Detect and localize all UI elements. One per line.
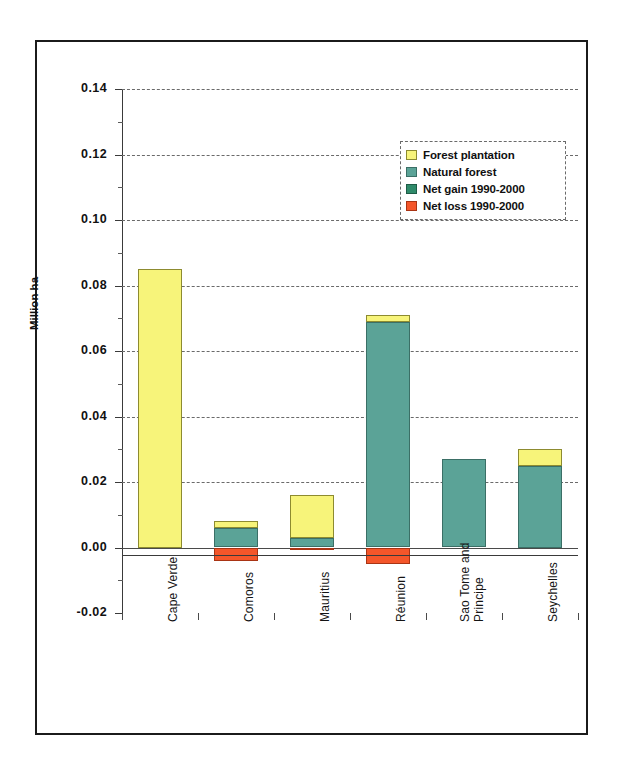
gridline-0.1 <box>122 220 578 221</box>
y-tick-label: 0.04 <box>45 409 107 423</box>
bar-group[interactable] <box>290 89 334 613</box>
bar-segment-plantation[interactable] <box>214 521 258 528</box>
x-axis-label-line1: Mauritius <box>318 572 332 622</box>
x-tick <box>350 613 351 620</box>
y-tick-label: 0.14 <box>45 81 107 95</box>
legend-item[interactable]: Net loss 1990-2000 <box>406 197 559 214</box>
x-axis-label: Comoros <box>242 572 256 622</box>
y-tick-label: 0.06 <box>45 343 107 357</box>
x-axis-label-line1: Réunion <box>394 576 408 622</box>
bar-segment-natural[interactable] <box>290 538 334 548</box>
gridline-0.02 <box>122 482 578 483</box>
bar-segment-plantation[interactable] <box>366 315 410 322</box>
x-axis-label: Réunion <box>394 576 408 622</box>
y-tick-label: -0.02 <box>45 605 107 619</box>
y-tick-label: 0.10 <box>45 212 107 226</box>
bar-group[interactable] <box>138 89 182 613</box>
legend-item[interactable]: Forest plantation <box>406 146 559 163</box>
x-axis-label-line1: Comoros <box>242 572 256 622</box>
x-axis-label: Seychelles <box>546 562 560 622</box>
y-tick-label: 0.12 <box>45 147 107 161</box>
legend-swatch-netgain-icon <box>406 184 417 194</box>
legend-label: Net loss 1990-2000 <box>423 200 524 212</box>
x-axis-label: Mauritius <box>318 572 332 622</box>
legend-swatch-netloss-icon <box>406 201 417 211</box>
x-axis-label: Cape Verde <box>166 557 180 622</box>
bar-segment-plantation[interactable] <box>138 269 182 547</box>
y-tick-label: 0.08 <box>45 278 107 292</box>
y-tick-label: 0.00 <box>45 540 107 554</box>
x-axis-label-line2: Principe <box>472 542 486 622</box>
gridline-0.06 <box>122 351 578 352</box>
gridline-0.08 <box>122 286 578 287</box>
legend-swatch-plantation-icon <box>406 150 417 160</box>
bar-segment-natural[interactable] <box>442 459 486 547</box>
x-tick <box>198 613 199 620</box>
bar-group[interactable] <box>214 89 258 613</box>
legend-item[interactable]: Net gain 1990-2000 <box>406 180 559 197</box>
legend-item[interactable]: Natural forest <box>406 163 559 180</box>
chart-legend: Forest plantationNatural forestNet gain … <box>400 141 566 220</box>
bar-segment-natural[interactable] <box>366 322 410 548</box>
x-axis-label-line1: Sao Tome and <box>458 542 472 622</box>
legend-swatch-natural-icon <box>406 167 417 177</box>
x-axis-label-line1: Cape Verde <box>166 557 180 622</box>
gridline-0.14 <box>122 89 578 90</box>
x-tick <box>578 613 579 620</box>
x-axis-label: Sao Tome andPrincipe <box>458 542 486 622</box>
bar-segment-natural[interactable] <box>214 528 258 548</box>
bar-segment-netloss[interactable] <box>290 548 334 551</box>
x-tick <box>502 613 503 620</box>
x-axis-line <box>122 555 578 556</box>
y-tick-label: 0.02 <box>45 474 107 488</box>
y-axis-title: Million ha <box>28 277 40 330</box>
x-tick <box>426 613 427 620</box>
gridline-0 <box>122 548 578 549</box>
x-axis-label-line1: Seychelles <box>546 562 560 622</box>
legend-label: Forest plantation <box>423 149 515 161</box>
x-tick <box>122 613 123 620</box>
bar-segment-plantation[interactable] <box>290 495 334 538</box>
bar-segment-plantation[interactable] <box>518 449 562 465</box>
gridline-0.04 <box>122 417 578 418</box>
bar-segment-natural[interactable] <box>518 466 562 548</box>
legend-label: Net gain 1990-2000 <box>423 183 525 195</box>
x-tick <box>274 613 275 620</box>
legend-label: Natural forest <box>423 166 496 178</box>
